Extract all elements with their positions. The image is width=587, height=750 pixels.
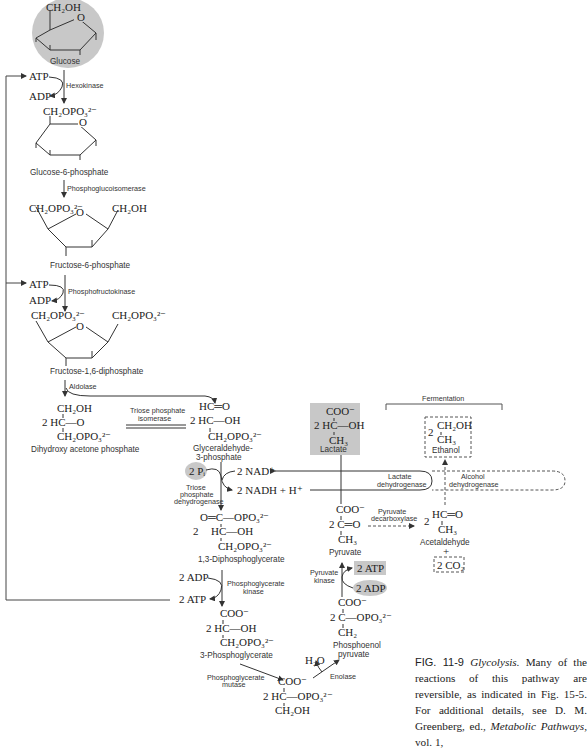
svg-text:isomerase: isomerase xyxy=(138,414,171,423)
svg-text:Hexokinase: Hexokinase xyxy=(66,81,104,90)
svg-text:2 ADP: 2 ADP xyxy=(179,571,209,583)
glucose-6-phosphate: O CH₂OPO₃²⁻ Glucose-6-phosphate xyxy=(30,105,109,177)
acetaldehyde: 2 HC═O CH₃ Acetaldehyde + 2 CO₂ xyxy=(420,508,470,572)
svg-text:Lactate: Lactate xyxy=(320,445,347,454)
svg-text:CH₂: CH₂ xyxy=(338,626,357,638)
svg-text:2 CO₂: 2 CO₂ xyxy=(437,559,465,571)
svg-text:CH₂OPO₃²⁻: CH₂OPO₃²⁻ xyxy=(29,202,83,214)
svg-text:O: O xyxy=(76,320,84,332)
svg-text:Phosphofructokinase: Phosphofructokinase xyxy=(68,287,135,296)
svg-text:2 C═O: 2 C═O xyxy=(329,518,360,530)
phosphoglycerate-mutase-step: Phosphoglycerate mutase xyxy=(207,664,283,689)
fermentation-bracket: Fermentation xyxy=(386,394,502,410)
svg-text:O═C—OPO₃²⁻: O═C—OPO₃²⁻ xyxy=(200,511,269,523)
svg-text:2 ATP: 2 ATP xyxy=(357,562,384,574)
svg-text:CH₂OPO₃²⁻: CH₂OPO₃²⁻ xyxy=(112,309,166,321)
svg-text:Fructose-6-phosphate: Fructose-6-phosphate xyxy=(50,261,131,270)
glyceraldehyde-3-phosphate: HC═O 2 HC—OH CH₂OPO₃²⁻ Glyceraldehyde- 3… xyxy=(190,400,262,462)
hexokinase-step: ATP ADP Hexokinase xyxy=(29,70,104,103)
svg-text:2: 2 xyxy=(424,515,430,527)
svg-text:COO⁻: COO⁻ xyxy=(220,607,249,619)
alcohol-dehydrogenase-step: Alcohol dehydrogenase xyxy=(445,460,499,505)
svg-text:Phosphoenol: Phosphoenol xyxy=(333,641,381,650)
2-phosphoglycerate: COO⁻ 2 HC—OPO₃²⁻ CH₂OH xyxy=(263,675,333,716)
svg-text:ATP: ATP xyxy=(29,70,49,82)
dihydroxyacetone-phosphate: CH₂OH 2 HC—O CH₂OPO₃²⁻ Dihydroxy acetone… xyxy=(31,402,140,454)
svg-text:dehydrogenase: dehydrogenase xyxy=(377,480,427,489)
svg-text:COO⁻: COO⁻ xyxy=(336,503,365,515)
svg-text:mutase: mutase xyxy=(222,680,246,689)
svg-text:CH₂OPO₃²⁻: CH₂OPO₃²⁻ xyxy=(220,636,274,648)
svg-text:3-Phosphoglycerate: 3-Phosphoglycerate xyxy=(200,651,273,660)
caption-text-2: vol. 1, xyxy=(415,736,443,748)
svg-text:COO⁻: COO⁻ xyxy=(338,596,367,608)
ethanol: 2 CH₂OH CH₃ Ethanol xyxy=(425,417,472,457)
svg-text:H₂O: H₂O xyxy=(305,654,325,666)
figure-caption: FIG. 11-9 Glycolysis. Many of the reacti… xyxy=(415,654,587,750)
svg-text:2 HC—OH: 2 HC—OH xyxy=(190,414,240,426)
fructose-1-6-diphosphate: O CH₂OPO₃²⁻ CH₂OPO₃²⁻ Fructose-1,6-dipho… xyxy=(31,309,166,376)
svg-text:CH₂OH: CH₂OH xyxy=(275,704,310,716)
glucose-molecule: O CH₂OH Glucose xyxy=(32,0,104,68)
svg-text:ADP: ADP xyxy=(29,294,51,306)
aldolase-step: Aldolase xyxy=(65,380,215,403)
triose-phosphate-isomerase-step: Triose phosphate isomerase xyxy=(126,406,186,428)
phosphoenolpyruvate: COO⁻ 2 C—OPO₃²⁻ CH₂ Phosphoenol pyruvate xyxy=(330,596,392,659)
svg-text:CH₃: CH₃ xyxy=(437,433,456,445)
svg-text:2 NAD⁺: 2 NAD⁺ xyxy=(237,465,275,477)
svg-text:CH₂OPO₃²⁻: CH₂OPO₃²⁻ xyxy=(31,309,85,321)
svg-text:HC═O: HC═O xyxy=(432,508,463,520)
svg-text:Fermentation: Fermentation xyxy=(422,394,464,403)
svg-text:Enolase: Enolase xyxy=(330,672,356,681)
fructose-6-phosphate: O CH₂OPO₃²⁻ CH₂OH Fructose-6-phosphate xyxy=(29,202,147,270)
pyruvate-kinase-step: 2 ATP 2 ADP Pyruvate kinase xyxy=(310,561,387,597)
svg-text:CH₂OPO₃²⁻: CH₂OPO₃²⁻ xyxy=(218,540,272,552)
phosphoglycerate-kinase-step: 2 ADP 2 ATP Phosphoglycerate kinase xyxy=(179,570,285,606)
svg-text:dehydrogenase: dehydrogenase xyxy=(174,497,224,506)
svg-text:2 Pᵢ: 2 Pᵢ xyxy=(189,465,205,477)
svg-text:Glyceraldehyde-: Glyceraldehyde- xyxy=(193,444,253,453)
svg-text:3-phosphate: 3-phosphate xyxy=(196,453,242,462)
svg-text:COO⁻: COO⁻ xyxy=(278,675,307,687)
svg-text:2 HC—OH: 2 HC—OH xyxy=(314,419,364,431)
glucose-label: Glucose xyxy=(50,57,80,66)
svg-text:2 ATP: 2 ATP xyxy=(179,593,206,605)
svg-text:kinase: kinase xyxy=(243,587,264,596)
1-3-diphosphoglycerate: O═C—OPO₃²⁻ 2 HC—OH CH₂OPO₃²⁻ 1,3-Diphosp… xyxy=(193,511,285,564)
svg-text:CH₂OH: CH₂OH xyxy=(112,202,147,214)
svg-text:Pyruvate: Pyruvate xyxy=(329,548,362,557)
svg-text:pyruvate: pyruvate xyxy=(338,650,370,659)
svg-text:2 ADP: 2 ADP xyxy=(356,582,386,594)
svg-text:dehydrogenase: dehydrogenase xyxy=(449,480,499,489)
pyruvate: COO⁻ 2 C═O CH₃ Pyruvate xyxy=(329,440,365,557)
svg-text:2 HC—OH: 2 HC—OH xyxy=(206,622,256,634)
phosphofructokinase-step: ATP ADP Phosphofructokinase xyxy=(29,275,135,311)
svg-text:CH₂OH: CH₂OH xyxy=(57,402,92,414)
svg-text:Fructose-1,6-diphosphate: Fructose-1,6-diphosphate xyxy=(50,367,144,376)
svg-text:1,3-Diphosphoglycerate: 1,3-Diphosphoglycerate xyxy=(198,555,285,564)
svg-text:Dihydroxy acetone phosphate: Dihydroxy acetone phosphate xyxy=(31,445,140,454)
svg-text:2 NADH + H⁺: 2 NADH + H⁺ xyxy=(237,484,303,496)
svg-text:CH₂OPO₃²⁻: CH₂OPO₃²⁻ xyxy=(43,105,97,117)
svg-text:HC—OH: HC—OH xyxy=(211,525,253,537)
svg-text:2 C—OPO₃²⁻: 2 C—OPO₃²⁻ xyxy=(330,611,392,623)
figure-title: Glycolysis. xyxy=(470,656,519,668)
3-phosphoglycerate: COO⁻ 2 HC—OH CH₂OPO₃²⁻ 3-Phosphoglycerat… xyxy=(200,607,274,660)
svg-text:HC═O: HC═O xyxy=(199,400,230,412)
svg-text:2: 2 xyxy=(193,525,199,537)
svg-text:ADP: ADP xyxy=(29,90,51,102)
pyruvate-decarboxylase-step: Pyruvate decarboxylase xyxy=(368,507,417,526)
atp-feedback-line xyxy=(6,76,170,600)
gapdh-step: 2 Pᵢ Triose phosphate dehydrogenase 2 NA… xyxy=(174,462,565,510)
svg-text:CH₃: CH₃ xyxy=(438,523,457,535)
svg-text:COO⁻: COO⁻ xyxy=(326,405,355,417)
svg-text:CH₂OPO₃²⁻: CH₂OPO₃²⁻ xyxy=(57,430,111,442)
glucose-group: CH₂OH xyxy=(46,1,81,13)
svg-text:2 HC—OPO₃²⁻: 2 HC—OPO₃²⁻ xyxy=(263,690,333,702)
svg-text:Phosphoglucoisomerase: Phosphoglucoisomerase xyxy=(67,184,146,193)
svg-text:Glucose-6-phosphate: Glucose-6-phosphate xyxy=(30,168,109,177)
lactate-dehydrogenase-step: Lactate dehydrogenase xyxy=(377,472,427,489)
svg-text:+: + xyxy=(443,545,449,557)
figure-number: FIG. 11-9 xyxy=(415,656,464,668)
